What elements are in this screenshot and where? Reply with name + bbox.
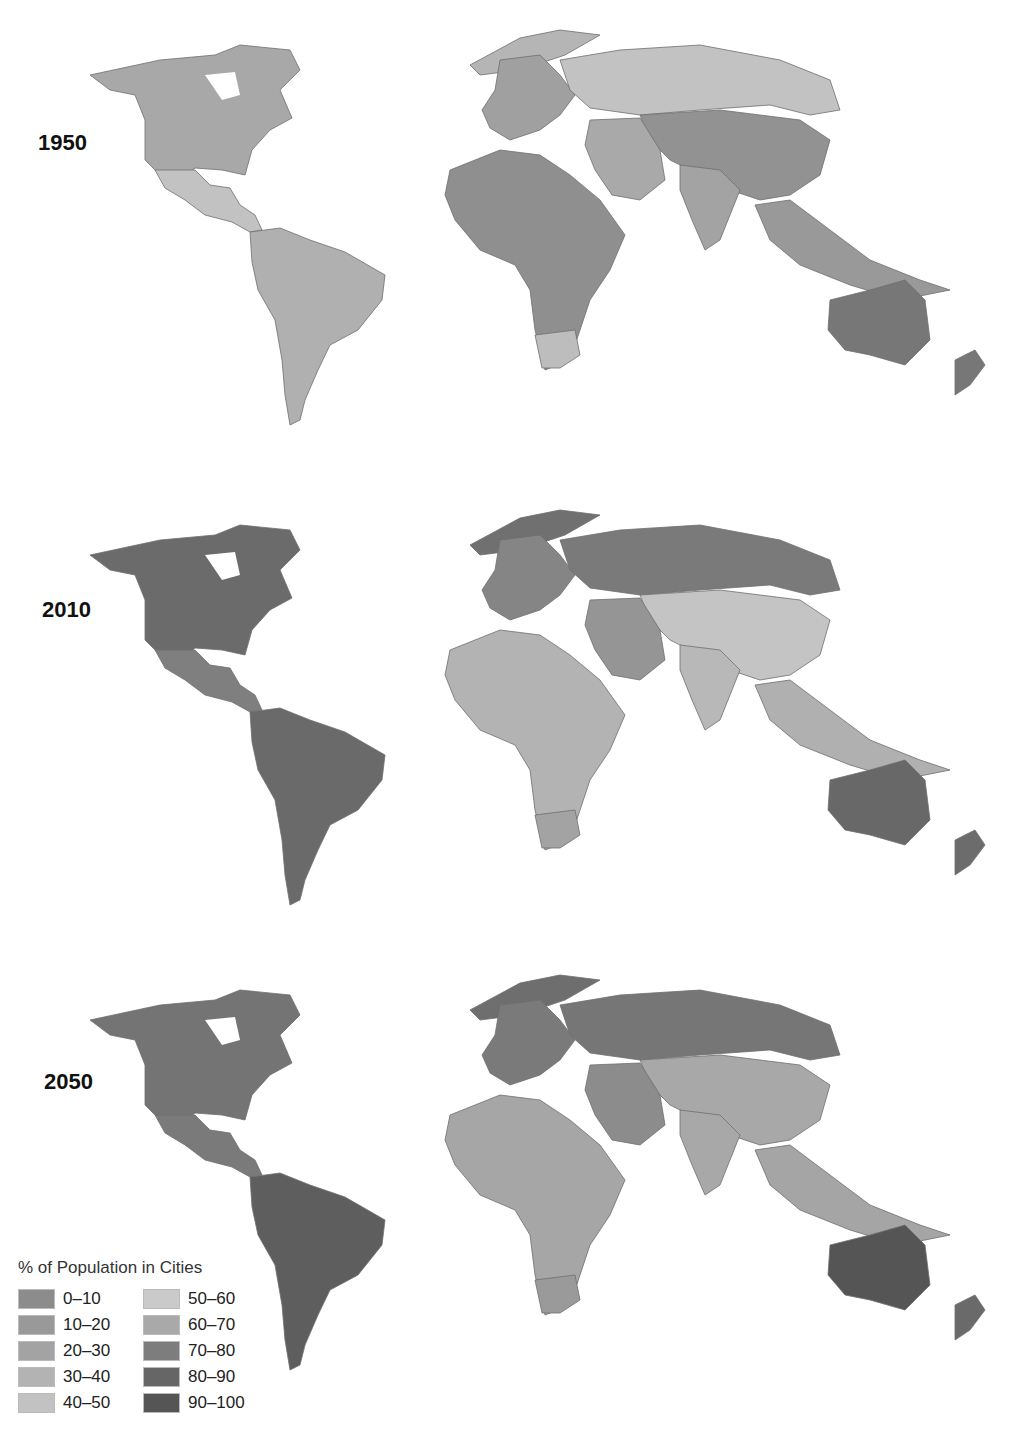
legend-swatch <box>18 1341 55 1361</box>
region-africa <box>445 1095 625 1315</box>
region-na <box>90 45 300 180</box>
region-sa <box>250 708 385 905</box>
legend-item: 30–40 <box>18 1364 143 1390</box>
legend-label: 90–100 <box>188 1393 245 1413</box>
world-map-1950 <box>0 0 1013 460</box>
region-africa <box>445 630 625 850</box>
legend-swatch <box>18 1315 55 1335</box>
legend-item: 60–70 <box>143 1312 268 1338</box>
region-australia <box>828 760 930 845</box>
legend-item: 90–100 <box>143 1390 268 1416</box>
world-map-2010 <box>0 480 1013 940</box>
legend-item: 20–30 <box>18 1338 143 1364</box>
legend-item: 80–90 <box>143 1364 268 1390</box>
legend: % of Population in Cities 0–10 10–20 20–… <box>18 1258 288 1416</box>
region-southafrica <box>535 1275 580 1313</box>
legend-swatch <box>143 1367 180 1387</box>
legend-item: 50–60 <box>143 1286 268 1312</box>
region-africa <box>445 150 625 370</box>
region-sea <box>755 680 950 780</box>
legend-swatch <box>143 1393 180 1413</box>
region-australia <box>828 1225 930 1310</box>
legend-label: 50–60 <box>188 1289 235 1309</box>
legend-swatch <box>18 1367 55 1387</box>
water-body <box>530 618 580 632</box>
region-sa <box>250 228 385 425</box>
region-nz <box>955 350 985 395</box>
legend-label: 70–80 <box>188 1341 235 1361</box>
legend-item: 10–20 <box>18 1312 143 1338</box>
region-russia <box>560 990 840 1060</box>
legend-label: 60–70 <box>188 1315 235 1335</box>
region-southafrica <box>535 810 580 848</box>
region-russia <box>560 525 840 595</box>
legend-label: 80–90 <box>188 1367 235 1387</box>
region-sea <box>755 1145 950 1245</box>
region-mexico <box>155 650 262 712</box>
region-russia <box>560 45 840 115</box>
region-mexico <box>155 1115 262 1177</box>
legend-swatch <box>18 1289 55 1309</box>
region-nz <box>955 830 985 875</box>
legend-swatch <box>143 1341 180 1361</box>
legend-label: 10–20 <box>63 1315 110 1335</box>
legend-item: 0–10 <box>18 1286 143 1312</box>
region-southafrica <box>535 330 580 368</box>
region-na <box>90 990 300 1125</box>
legend-label: 0–10 <box>63 1289 101 1309</box>
region-mexico <box>155 170 262 232</box>
legend-label: 20–30 <box>63 1341 110 1361</box>
legend-grid: 0–10 10–20 20–30 30–40 40–50 50–60 60–70… <box>18 1286 288 1416</box>
legend-label: 40–50 <box>63 1393 110 1413</box>
water-body <box>530 1083 580 1097</box>
legend-label: 30–40 <box>63 1367 110 1387</box>
map-panel-1950: 1950 <box>0 0 1013 460</box>
map-panel-2010: 2010 <box>0 480 1013 940</box>
region-australia <box>828 280 930 365</box>
legend-item: 70–80 <box>143 1338 268 1364</box>
legend-item: 40–50 <box>18 1390 143 1416</box>
legend-swatch <box>143 1289 180 1309</box>
region-sea <box>755 200 950 300</box>
region-nz <box>955 1295 985 1340</box>
legend-swatch <box>143 1315 180 1335</box>
legend-title: % of Population in Cities <box>18 1258 288 1278</box>
water-body <box>530 138 580 152</box>
region-na <box>90 525 300 660</box>
legend-swatch <box>18 1393 55 1413</box>
